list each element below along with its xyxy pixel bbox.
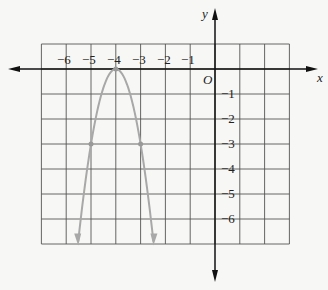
y-tick-label-neg1: −1	[221, 86, 235, 101]
x-axis-left-arrow-icon	[8, 66, 20, 72]
y-tick-label-neg6: −6	[221, 211, 235, 226]
marked-point	[89, 142, 94, 147]
origin-label: O	[203, 72, 213, 87]
x-tick-label-neg4: −4	[107, 52, 121, 67]
marked-point	[113, 67, 118, 72]
y-axis-up-arrow-icon	[212, 8, 218, 20]
axes	[8, 8, 318, 282]
y-axis-down-arrow-icon	[212, 270, 218, 282]
graph-figure: x y O −6 −5 −4 −3 −2 −1 −1 −2 −3 −4 −5 −…	[0, 0, 328, 290]
y-tick-label-neg4: −4	[221, 161, 235, 176]
x-tick-label-neg2: −2	[157, 52, 171, 67]
x-tick-label-neg3: −3	[132, 52, 146, 67]
marked-point	[138, 142, 143, 147]
coordinate-plane: x y O −6 −5 −4 −3 −2 −1 −1 −2 −3 −4 −5 −…	[0, 0, 328, 290]
grid-lines	[41, 44, 289, 244]
y-tick-label-neg3: −3	[221, 136, 235, 151]
x-axis-label: x	[316, 70, 323, 85]
x-tick-label-neg6: −6	[57, 52, 71, 67]
x-tick-label-neg5: −5	[82, 52, 96, 67]
y-axis-label: y	[200, 6, 208, 21]
y-tick-label-neg2: −2	[221, 111, 235, 126]
x-tick-label-neg1: −1	[181, 52, 195, 67]
y-tick-label-neg5: −5	[221, 186, 235, 201]
